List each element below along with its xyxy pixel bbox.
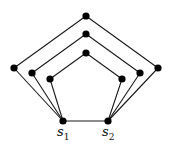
edge-s1-outer-left [14, 68, 63, 121]
node-middle-right [136, 69, 143, 76]
edge-outer-right-s2 [108, 68, 158, 121]
node-inner-top [82, 49, 89, 56]
vertex-label-s2: s2 [102, 125, 114, 142]
edge-middle-top-middle-right [86, 34, 140, 73]
label-s2-subscript: 2 [109, 132, 115, 142]
node-layer [10, 12, 161, 124]
label-s1-main: s [57, 124, 64, 139]
edge-inner-right-s2 [108, 79, 122, 121]
edge-inner-top-inner-right [86, 53, 122, 79]
edge-middle-left-middle-top [32, 34, 86, 73]
node-outer-top [82, 12, 89, 19]
node-outer-right [154, 64, 161, 71]
label-s1-subscript: 1 [64, 132, 70, 142]
node-outer-left [10, 64, 17, 71]
node-middle-top [82, 30, 89, 37]
label-s2-main: s [102, 124, 109, 139]
node-middle-left [28, 69, 35, 76]
node-inner-right [118, 75, 125, 82]
edge-inner-left-inner-top [50, 53, 86, 79]
vertex-label-s1: s1 [57, 125, 69, 142]
node-inner-left [46, 75, 53, 82]
graph-diagram [0, 0, 173, 144]
